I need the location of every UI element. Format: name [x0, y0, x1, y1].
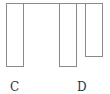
category-label-c: C	[10, 80, 19, 94]
category-label-d: D	[77, 80, 87, 94]
bar-d-1	[59, 3, 77, 67]
bar-c	[6, 3, 24, 67]
bar-d-2	[85, 3, 103, 57]
